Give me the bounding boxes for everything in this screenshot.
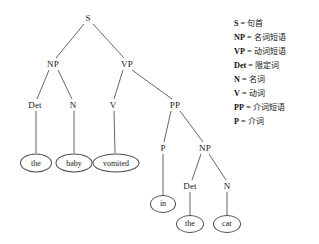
legend-definition: 动词 [249, 90, 265, 98]
tree-leaf-vomited: vomited [93, 154, 140, 173]
tree-edge [164, 111, 171, 142]
legend-equals-sign: = [241, 20, 246, 28]
tree-node-vp: VP [121, 60, 133, 69]
legend-symbol: VP [234, 48, 245, 56]
tree-node-pp: PP [170, 101, 180, 110]
legend-equals-sign: = [246, 104, 251, 112]
legend-symbol: P [234, 118, 239, 126]
legend-definition: 限定词 [255, 62, 279, 70]
tree-edge [209, 154, 226, 180]
legend-row: V=动词 [234, 87, 318, 101]
tree-edge [56, 24, 84, 58]
tree-edge [58, 70, 72, 99]
legend-equals-sign: = [242, 76, 247, 84]
legend-definition: 动词短语 [254, 48, 286, 56]
legend-row: PP=介词短语 [234, 101, 318, 115]
tree-node-np2: NP [199, 144, 211, 153]
legend-row: P=介词 [234, 115, 318, 129]
tree-leaf-the1: the [20, 154, 52, 173]
legend-equals-sign: = [248, 62, 253, 70]
legend-symbol: S [234, 20, 239, 28]
tree-node-p: P [160, 144, 165, 153]
tree-leaf-car: car [213, 215, 241, 233]
legend-symbol: NP [234, 34, 245, 42]
tree-node-v: V [110, 101, 117, 110]
legend-definition: 句首 [247, 20, 263, 28]
legend-equals-sign: = [241, 118, 246, 126]
legend-definition: 名词 [249, 76, 265, 84]
legend-equals-sign: = [247, 34, 252, 42]
tree-edge [114, 111, 115, 153]
legend-definition: 介词短语 [253, 104, 285, 112]
legend-row: NP=名词短语 [234, 31, 318, 45]
tree-edge [114, 70, 123, 99]
legend-row: S=句首 [234, 17, 318, 31]
tree-edge [180, 111, 203, 142]
tree-node-np1: NP [47, 60, 59, 69]
legend-row: Det=限定词 [234, 59, 318, 73]
tree-node-det1: Det [28, 101, 42, 110]
tree-edge [192, 154, 201, 180]
legend-symbol: N [234, 76, 240, 84]
tree-node-s: S [85, 14, 90, 23]
tree-node-det2: Det [183, 182, 197, 191]
syntax-tree-diagram: SNPVPDetNVPPPNPDetNthebabyvomitedintheca… [0, 0, 319, 244]
tree-leaf-the2: the [176, 215, 204, 233]
legend-equals-sign: = [247, 48, 252, 56]
tree-edge [93, 24, 124, 58]
legend-definition: 介词 [248, 118, 264, 126]
legend-definition: 名词短语 [254, 34, 286, 42]
tree-leaf-baby: baby [56, 154, 93, 173]
tree-edge [37, 70, 49, 99]
legend-row: VP=动词短语 [234, 45, 318, 59]
legend-symbol: V [234, 90, 240, 98]
legend-row: N=名词 [234, 73, 318, 87]
tree-edge [132, 70, 172, 99]
tree-node-n1: N [70, 101, 77, 110]
legend: S=句首NP=名词短语VP=动词短语Det=限定词N=名词V=动词PP=介词短语… [234, 17, 318, 129]
legend-symbol: Det [234, 62, 246, 70]
legend-symbol: PP [234, 104, 244, 112]
tree-leaf-in: in [150, 195, 176, 213]
legend-equals-sign: = [242, 90, 247, 98]
tree-node-n2: N [224, 182, 231, 191]
